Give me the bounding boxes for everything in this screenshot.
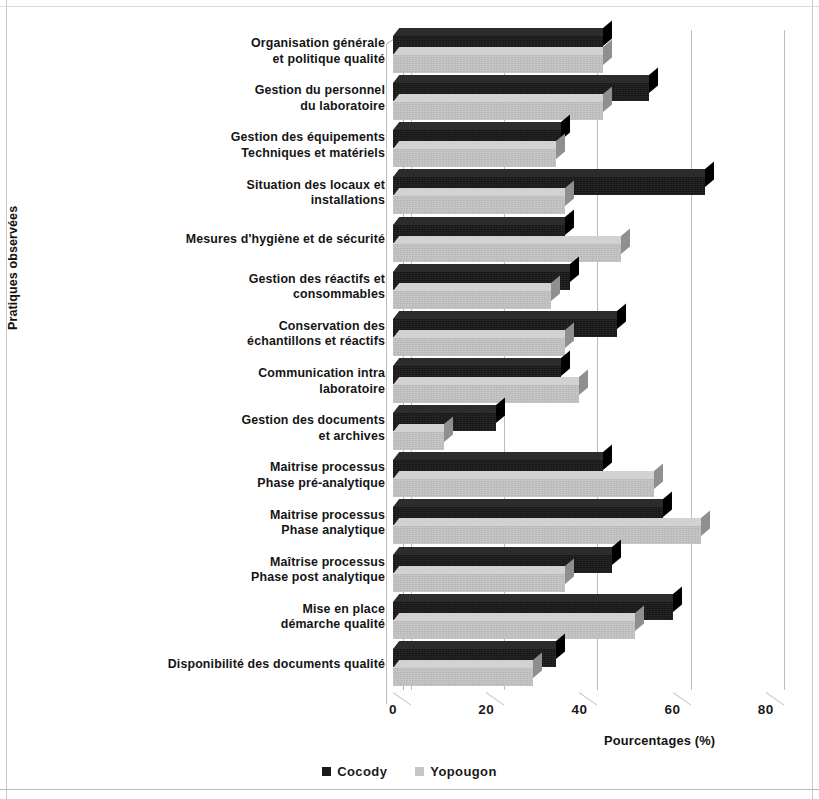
legend-label: Cocody [337,764,387,779]
bar-side-face [705,162,714,188]
bar-top-face [393,594,679,602]
category-label: Communication intralaboratoire [60,366,385,397]
bar-body [393,574,565,592]
category-label: Gestion des réactifs etconsommables [60,272,385,303]
bar-side-face [649,68,658,94]
bar-top-face [393,547,618,555]
x-tick-label: 60 [665,702,681,717]
category-label-line: Maîtrise processus [60,555,385,571]
bar-body [393,338,565,356]
category-label: Gestion du personneldu laboratoire [60,83,385,114]
bar-top-face [393,75,656,83]
bar-face [393,385,579,403]
category-label: Mise en placedémarche qualité [60,602,385,633]
x-tick-label: 80 [758,702,774,717]
category-label-line: Phase pré-analytique [60,476,385,492]
bar-top-face [393,188,572,196]
category-label-line: Conservation des [60,319,385,335]
category-label-line: consommables [60,287,385,303]
bar-face [393,196,565,214]
bar-face [393,479,654,497]
category-label-line: Mesures d'hygiène et de sécurité [60,232,385,248]
bar-top-face [393,94,609,102]
category-label-line: Gestion des documents [60,413,385,429]
category-label-line: démarche qualité [60,617,385,633]
bar-side-face [579,369,588,395]
bar-side-face [603,445,612,471]
figure-border-right [812,0,813,799]
gridline-40 [597,30,598,690]
bar-top-face [393,217,572,225]
category-label-line: Phase analytique [60,523,385,539]
bar-top-face [393,236,628,244]
x-tick-label: 40 [571,702,587,717]
bar-top-face [393,330,572,338]
legend-item-yopougon[interactable]: Yopougon [415,764,497,779]
category-label: Maitrise processusPhase pré-analytique [60,460,385,491]
bar-face [393,102,603,120]
bar-face [393,338,565,356]
axis-front-line [386,44,387,704]
bar-top-face [393,47,609,55]
bar-body [393,196,565,214]
category-label: Disponibilité des documents qualité [60,657,385,673]
category-label-line: Phase post analytique [60,570,385,586]
bar-body [393,526,701,544]
bar-side-face [565,209,574,235]
bar-body [393,102,603,120]
category-label-line: Gestion des réactifs et [60,272,385,288]
category-label: Mesures d'hygiène et de sécurité [60,232,385,248]
category-label-line: échantillons et réactifs [60,334,385,350]
category-label-line: Disponibilité des documents qualité [60,657,385,673]
bar-face [393,526,701,544]
bar-top-face [393,566,572,574]
bar-top-face [393,660,539,668]
chart-figure: Pratiques observées Organisation général… [0,0,819,799]
category-label-line: Mise en place [60,602,385,618]
y-axis-title: Pratiques observées [6,110,20,330]
category-label-line: Gestion des équipements [60,130,385,146]
category-label-line: et archives [60,429,385,445]
gridline-80 [784,30,785,690]
category-label-line: et politique qualité [60,52,385,68]
legend-item-cocody[interactable]: Cocody [322,764,387,779]
bar-face [393,149,556,167]
bar-top-face [393,452,609,460]
gridline-60 [691,30,692,690]
bar-top-face [393,264,576,272]
bar-side-face [654,464,663,490]
bar-top-face [393,122,567,130]
category-label: Situation des locaux etinstallations [60,178,385,209]
category-label: Maîtrise processusPhase post analytique [60,555,385,586]
category-label-line: Techniques et matériels [60,146,385,162]
bar-top-face [393,613,642,621]
x-tick-label: 0 [389,702,397,717]
bar-top-face [393,405,502,413]
bar-body [393,621,635,639]
bar-side-face [701,511,710,537]
bar-top-face [393,28,609,36]
category-label: Conservation deséchantillons et réactifs [60,319,385,350]
category-label-column: Organisation généraleet politique qualit… [60,32,385,687]
bar-body [393,668,533,686]
bar-top-face [393,377,586,385]
bar-top-face [393,518,707,526]
bar-face [393,55,603,73]
category-label-line: Situation des locaux et [60,178,385,194]
bar-top-face [393,641,562,649]
bar-body [393,55,603,73]
category-label: Maitrise processusPhase analytique [60,508,385,539]
legend-label: Yopougon [430,764,497,779]
bar-body [393,291,551,309]
bar-side-face [663,492,672,518]
bar-side-face [617,303,626,329]
plot-area: 020406080 [386,30,806,720]
category-label-line: Maitrise processus [60,508,385,524]
bar-side-face [673,586,682,612]
category-label-line: Communication intra [60,366,385,382]
category-label: Gestion des documentset archives [60,413,385,444]
bar-face [393,621,635,639]
x-axis-title: Pourcentages (%) [604,733,715,748]
bar-face [393,668,533,686]
bar-body [393,244,621,262]
